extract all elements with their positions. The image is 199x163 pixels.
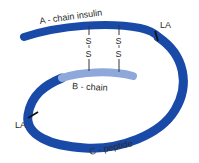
sulfur-label: S bbox=[116, 36, 122, 46]
a-chain-strand bbox=[24, 25, 160, 38]
sulfur-label: S bbox=[86, 49, 92, 59]
b-chain-label: B - chain bbox=[72, 81, 108, 93]
la-label-top: LA bbox=[160, 20, 171, 30]
sulfur-label: S bbox=[86, 36, 92, 46]
c-peptide-label: C - peptide bbox=[88, 138, 133, 157]
b-chain-strand bbox=[62, 72, 133, 78]
disulfide-bond-1: S S bbox=[86, 26, 92, 71]
disulfide-bond-2: S S bbox=[116, 25, 122, 72]
sulfur-label: S bbox=[116, 49, 122, 59]
proinsulin-diagram: S S S S A - chain insulin LA B - chain L… bbox=[0, 0, 199, 163]
la-label-left: LA bbox=[15, 120, 26, 130]
